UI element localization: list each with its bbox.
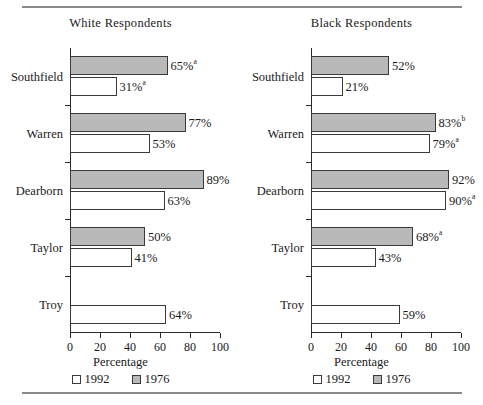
x-tick xyxy=(311,333,312,338)
bar-1992[interactable]: 90%a xyxy=(311,191,446,210)
bar-value-label: 59% xyxy=(403,307,426,322)
panel-black-respondents: Black Respondents 020406080100Southfield… xyxy=(241,16,482,384)
category-label: Warren xyxy=(268,126,304,141)
bar-value-label: 64% xyxy=(169,307,192,322)
category-group: Warren77%53% xyxy=(70,105,220,162)
bar-value-label: 43% xyxy=(379,250,402,265)
legend-label-1976: 1976 xyxy=(145,372,170,387)
bottom-rule xyxy=(22,392,462,394)
x-tick xyxy=(190,333,191,338)
category-label: Southfield xyxy=(11,69,63,84)
footnote-marker: a xyxy=(439,228,442,237)
bar-value-label: 65%a xyxy=(171,58,197,73)
bar-value-label: 52% xyxy=(392,58,415,73)
category-group: Troy59% xyxy=(311,276,461,333)
category-label: Dearborn xyxy=(257,183,304,198)
legend: 1992 1976 xyxy=(241,372,482,387)
bar-1976[interactable]: 83%b xyxy=(311,113,436,132)
bar-value-label: 83%b xyxy=(439,115,466,130)
footnote-marker: a xyxy=(455,135,458,144)
bar-value-label: 92% xyxy=(452,172,475,187)
bar-value-label: 90%a xyxy=(449,193,475,208)
bar-value-label: 68%a xyxy=(416,229,442,244)
category-group: Southfield65%a31%a xyxy=(70,48,220,105)
bar-value-label: 50% xyxy=(148,229,171,244)
category-group: Warren83%b79%a xyxy=(311,105,461,162)
bar-1992[interactable]: 43% xyxy=(311,248,376,267)
bar-1976[interactable]: 50% xyxy=(70,227,145,246)
plot-area: 020406080100Southfield65%a31%aWarren77%5… xyxy=(70,48,220,333)
legend-swatch-1976 xyxy=(132,375,141,384)
legend-item-1976: 1976 xyxy=(373,372,411,387)
x-tick xyxy=(160,333,161,338)
bar-1976[interactable]: 52% xyxy=(311,56,389,75)
bar-1992[interactable]: 64% xyxy=(70,305,166,324)
bar-value-label: 41% xyxy=(135,250,158,265)
bar-1992[interactable]: 59% xyxy=(311,305,400,324)
bar-1992[interactable]: 79%a xyxy=(311,134,430,153)
bar-value-label: 89% xyxy=(207,172,230,187)
legend-item-1976: 1976 xyxy=(132,372,170,387)
legend-label-1992: 1992 xyxy=(85,372,110,387)
x-tick xyxy=(220,333,221,338)
x-tick xyxy=(401,333,402,338)
bar-1992[interactable]: 53% xyxy=(70,134,150,153)
bar-1992[interactable]: 41% xyxy=(70,248,132,267)
bar-1976[interactable]: 68%a xyxy=(311,227,413,246)
top-rule xyxy=(22,6,462,8)
bar-1976[interactable]: 65%a xyxy=(70,56,168,75)
bar-value-label: 63% xyxy=(168,193,191,208)
legend-swatch-1992 xyxy=(72,375,81,384)
bar-value-label: 77% xyxy=(189,115,212,130)
category-group: Southfield52%21% xyxy=(311,48,461,105)
bar-1976[interactable]: 92% xyxy=(311,170,449,189)
legend-label-1976: 1976 xyxy=(386,372,411,387)
category-label: Dearborn xyxy=(16,183,63,198)
panel-title: Black Respondents xyxy=(241,16,482,31)
legend: 1992 1976 xyxy=(0,372,241,387)
x-tick xyxy=(341,333,342,338)
x-tick xyxy=(431,333,432,338)
category-label: Taylor xyxy=(272,240,304,255)
panel-title: White Respondents xyxy=(0,16,241,31)
x-axis-title: Percentage xyxy=(241,355,482,370)
x-tick-label: 100 xyxy=(200,340,240,355)
bar-value-label: 79%a xyxy=(433,136,459,151)
footnote-marker: a xyxy=(193,57,196,66)
footnote-marker: a xyxy=(472,192,475,201)
category-group: Dearborn89%63% xyxy=(70,162,220,219)
bar-1976[interactable]: 77% xyxy=(70,113,186,132)
bar-value-label: 21% xyxy=(346,79,369,94)
x-tick-label: 100 xyxy=(441,340,481,355)
panel-white-respondents: White Respondents 020406080100Southfield… xyxy=(0,16,241,384)
x-tick xyxy=(70,333,71,338)
footnote-marker: b xyxy=(461,114,465,123)
legend-label-1992: 1992 xyxy=(326,372,351,387)
legend-swatch-1992 xyxy=(313,375,322,384)
category-group: Dearborn92%90%a xyxy=(311,162,461,219)
category-group: Taylor50%41% xyxy=(70,219,220,276)
x-tick xyxy=(130,333,131,338)
legend-swatch-1976 xyxy=(373,375,382,384)
legend-item-1992: 1992 xyxy=(313,372,351,387)
category-label: Taylor xyxy=(31,240,63,255)
category-label: Troy xyxy=(39,297,63,312)
bar-1992[interactable]: 63% xyxy=(70,191,165,210)
category-label: Troy xyxy=(280,297,304,312)
x-tick xyxy=(461,333,462,338)
bar-1992[interactable]: 21% xyxy=(311,77,343,96)
bar-1976[interactable]: 89% xyxy=(70,170,204,189)
category-group: Taylor68%a43% xyxy=(311,219,461,276)
bar-1992[interactable]: 31%a xyxy=(70,77,117,96)
footnote-marker: a xyxy=(142,78,145,87)
bar-value-label: 31%a xyxy=(120,79,146,94)
x-axis-title: Percentage xyxy=(0,355,241,370)
plot-area: 020406080100Southfield52%21%Warren83%b79… xyxy=(311,48,461,333)
category-group: Troy64% xyxy=(70,276,220,333)
category-label: Warren xyxy=(27,126,63,141)
legend-item-1992: 1992 xyxy=(72,372,110,387)
x-tick xyxy=(371,333,372,338)
x-tick xyxy=(100,333,101,338)
bar-value-label: 53% xyxy=(153,136,176,151)
category-label: Southfield xyxy=(252,69,304,84)
